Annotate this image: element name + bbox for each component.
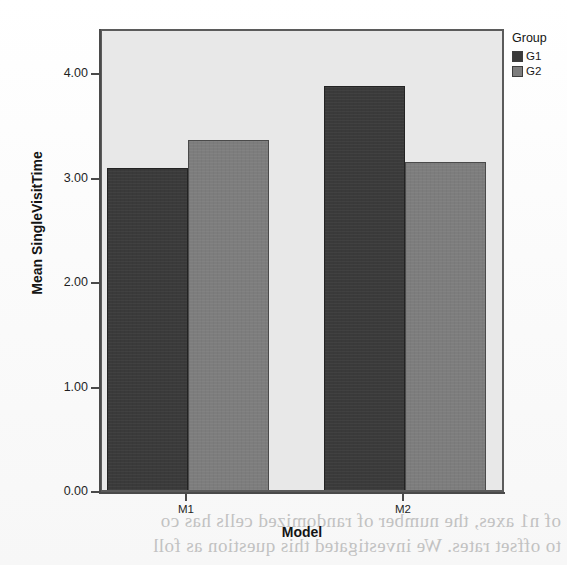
- bar-m2-g2: [405, 162, 486, 490]
- y-tick-label-0.00: 0.00: [26, 484, 88, 498]
- legend-swatch-g2: [512, 66, 523, 77]
- legend-item-g1: G1: [512, 50, 567, 62]
- x-axis-line: [100, 492, 505, 494]
- y-axis-line: [99, 29, 101, 494]
- legend-title: Group: [512, 31, 567, 45]
- legend-item-g2: G2: [512, 65, 567, 77]
- y-tick-1.00: [91, 387, 100, 389]
- x-axis-title: Model: [100, 524, 504, 540]
- bar-chart: 0.001.002.003.004.00 Mean SingleVisitTim…: [0, 0, 567, 565]
- x-tick-m2: [402, 492, 404, 501]
- x-tick-label-m2: M2: [368, 503, 438, 515]
- y-tick-4.00: [91, 73, 100, 75]
- y-tick-3.00: [91, 178, 100, 180]
- plot-inner: [102, 31, 502, 490]
- x-tick-m1: [185, 492, 187, 501]
- y-tick-label-4.00: 4.00: [26, 66, 88, 80]
- legend: Group G1G2: [512, 31, 567, 80]
- bar-m1-g2: [188, 140, 269, 490]
- legend-swatch-g1: [512, 51, 523, 62]
- bar-m1-g1: [107, 168, 188, 490]
- y-tick-2.00: [91, 282, 100, 284]
- y-tick-label-1.00: 1.00: [26, 380, 88, 394]
- legend-label-g1: G1: [526, 50, 541, 62]
- x-tick-label-m1: M1: [151, 503, 221, 515]
- y-axis-title: Mean SingleVisitTime: [29, 123, 45, 323]
- y-tick-0.00: [91, 491, 100, 493]
- legend-items: G1G2: [512, 50, 567, 77]
- bar-m2-g1: [324, 86, 405, 490]
- plot-area: [100, 29, 504, 492]
- legend-label-g2: G2: [526, 65, 541, 77]
